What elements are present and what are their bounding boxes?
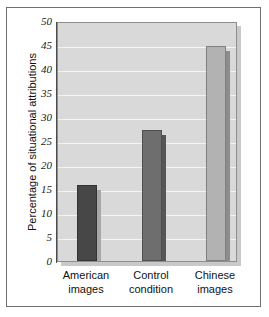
y-tick-label: 0 [26,256,52,267]
plot-area [57,22,237,262]
x-tick-label: Chineseimages [175,268,255,296]
y-axis-line [56,22,57,263]
y-tick-label: 50 [26,16,52,27]
y-axis-title: Percentage of situational attributions [26,42,38,242]
bar [77,185,101,261]
bar [206,46,230,261]
bar-body [142,130,162,261]
bar [142,130,166,261]
bar-body [206,46,226,261]
bar-body [77,185,97,261]
figure: 05101520253035404550 Percentage of situa… [0,0,269,317]
